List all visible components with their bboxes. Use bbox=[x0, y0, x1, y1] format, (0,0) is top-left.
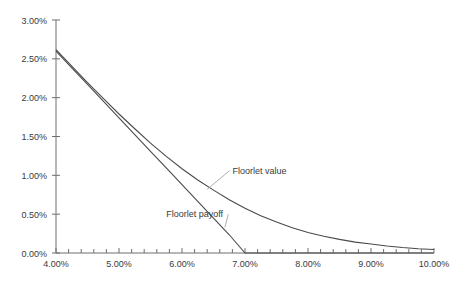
y-axis-tick-label: 0.00% bbox=[21, 249, 47, 259]
x-axis-tick-label: 6.00% bbox=[169, 259, 195, 269]
chart-canvas: 4.00%5.00%6.00%7.00%8.00%9.00%10.00%0.00… bbox=[0, 0, 459, 287]
y-axis-tick-label: 0.50% bbox=[21, 210, 47, 220]
annotation-leader-floorlet-value bbox=[207, 171, 229, 190]
x-axis-tick-label: 5.00% bbox=[106, 259, 132, 269]
x-axis-tick-label: 10.00% bbox=[419, 259, 450, 269]
annotation-label-floorlet-value: Floorlet value bbox=[232, 166, 286, 176]
y-axis-tick-label: 2.00% bbox=[21, 93, 47, 103]
series-line-floorlet-value bbox=[56, 50, 434, 250]
x-axis-tick-label: 4.00% bbox=[43, 259, 69, 269]
floorlet-chart: 4.00%5.00%6.00%7.00%8.00%9.00%10.00%0.00… bbox=[0, 0, 459, 287]
x-axis-tick-label: 7.00% bbox=[232, 259, 258, 269]
y-axis-tick-label: 3.00% bbox=[21, 16, 47, 26]
annotation-leader-floorlet-payoff bbox=[225, 214, 228, 227]
series-line-floorlet-payoff bbox=[56, 51, 434, 253]
y-axis-tick-label: 1.50% bbox=[21, 132, 47, 142]
y-axis-tick-label: 1.00% bbox=[21, 171, 47, 181]
annotation-label-floorlet-payoff: Floorlet payoff bbox=[166, 209, 223, 219]
x-axis-tick-label: 9.00% bbox=[358, 259, 384, 269]
x-axis-tick-label: 8.00% bbox=[295, 259, 321, 269]
y-axis-tick-label: 2.50% bbox=[21, 54, 47, 64]
